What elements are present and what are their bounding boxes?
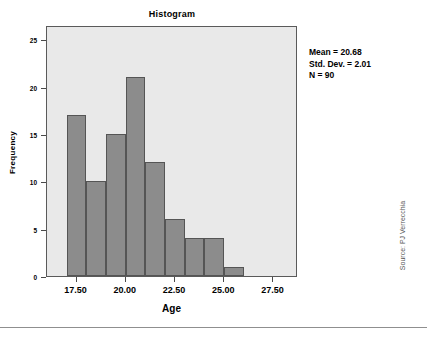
histogram-bar [145, 162, 165, 276]
y-tick-label: 5 [33, 226, 37, 233]
histogram-bar [185, 238, 205, 276]
histogram-bar [126, 77, 146, 276]
x-tick-label: 27.50 [261, 285, 284, 295]
y-tick-label: 10 [30, 179, 37, 186]
x-tick-mark [76, 277, 77, 282]
x-tick-mark [223, 277, 224, 282]
y-tick-label: 25 [30, 37, 37, 44]
stat-mean: Mean = 20.68 [309, 47, 371, 59]
histogram-bar [224, 267, 244, 276]
y-tick-label: 15 [30, 131, 37, 138]
stat-stddev: Std. Dev. = 2.01 [309, 59, 371, 71]
chart-title: Histogram [46, 9, 298, 19]
x-tick-label: 20.00 [113, 285, 136, 295]
source-credit: Source: PJ Verrecchia [396, 232, 410, 332]
histogram-bar [86, 181, 106, 276]
statistics-annotation: Mean = 20.68 Std. Dev. = 2.01 N = 90 [309, 47, 371, 82]
x-tick-mark [174, 277, 175, 282]
y-tick-label: 0 [33, 274, 37, 281]
bars-container [47, 27, 296, 276]
y-tick-label: 20 [30, 84, 37, 91]
x-tick-label: 17.50 [64, 285, 87, 295]
x-tick-mark [272, 277, 273, 282]
footer-divider [0, 327, 427, 328]
source-credit-label: Source: PJ Verrecchia [400, 201, 407, 270]
histogram-bar [106, 134, 126, 276]
x-tick-label: 22.50 [163, 285, 186, 295]
stat-n: N = 90 [309, 70, 371, 82]
x-axis-title: Age [46, 303, 297, 314]
histogram-bar [165, 219, 185, 276]
histogram-figure: Histogram Frequency 0510152025 17.5020.0… [0, 0, 427, 345]
histogram-bar [204, 238, 224, 276]
x-tick-mark [125, 277, 126, 282]
histogram-bar [67, 115, 87, 276]
plot-area [46, 26, 297, 277]
y-axis: 0510152025 [0, 26, 46, 278]
x-tick-label: 25.00 [212, 285, 235, 295]
